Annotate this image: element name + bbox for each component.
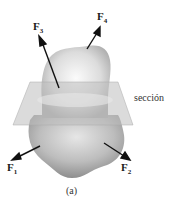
section-label: sección [134,92,164,103]
force-label-f2: F2 [121,161,131,176]
figure-caption: (a) [66,185,77,196]
force-label-f1: F1 [7,161,17,176]
force-label-f3: F3 [33,20,43,35]
body-diagram [0,0,175,213]
force-label-f4: F4 [97,10,107,25]
